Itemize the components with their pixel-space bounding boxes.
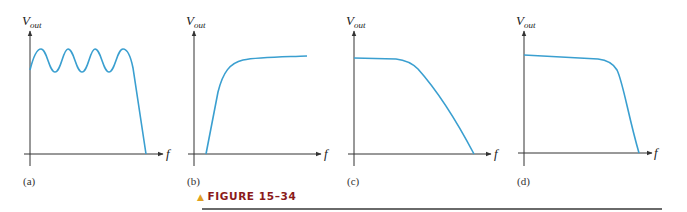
svg-text:f: f xyxy=(654,145,660,160)
svg-text:f: f xyxy=(166,146,172,161)
panel-label-a: (a) xyxy=(23,175,35,187)
response-curve xyxy=(524,55,639,153)
response-curve xyxy=(206,56,307,154)
svg-text:out: out xyxy=(354,20,366,30)
triangle-marker-icon: ▲ xyxy=(197,192,205,202)
svg-text:out: out xyxy=(194,20,206,30)
svg-text:out: out xyxy=(524,20,536,30)
caption-rule xyxy=(202,208,662,210)
panel-b: V out f xyxy=(186,13,330,166)
response-curve xyxy=(354,58,474,154)
panel-label-c: (c) xyxy=(347,175,359,187)
response-curve xyxy=(30,49,146,154)
panel-label-b: (b) xyxy=(187,175,200,187)
svg-text:f: f xyxy=(324,146,330,161)
filter-response-figure: V out f V out f V out f V out f xyxy=(0,0,687,212)
panel-a: V out f xyxy=(22,13,172,166)
panel-d: V out f xyxy=(516,13,660,166)
figure-caption: ▲FIGURE 15–34 xyxy=(197,190,296,202)
svg-text:out: out xyxy=(30,20,42,30)
svg-text:f: f xyxy=(494,146,500,161)
panel-c: V out f xyxy=(346,13,500,166)
figure-caption-label: FIGURE 15–34 xyxy=(208,190,297,202)
panel-label-d: (d) xyxy=(517,175,530,187)
